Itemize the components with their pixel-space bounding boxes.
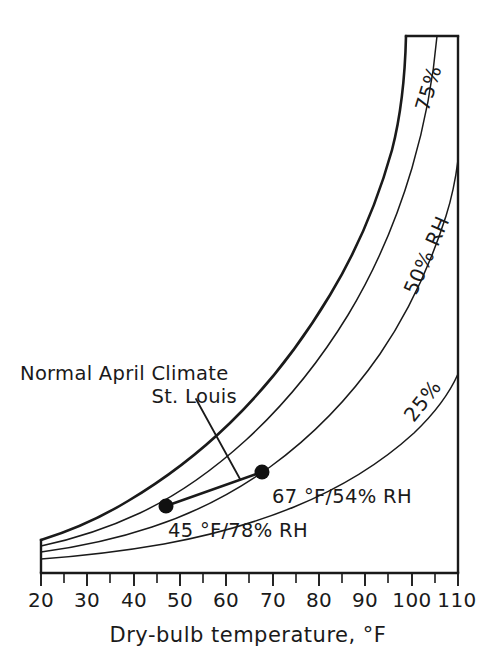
- data-point-hot[interactable]: [255, 465, 270, 480]
- point-label-hot: 67 °F/54% RH: [272, 485, 412, 508]
- rh-label-group: 75% 50% RH 25%: [399, 62, 455, 426]
- x-axis-minor-ticks: [64, 573, 435, 583]
- x-axis: 20 30 40 50 60 70 80 90 100 110 Dry-bulb…: [28, 573, 477, 647]
- x-tick-label-70: 70: [260, 588, 286, 612]
- x-tick-label-90: 90: [352, 588, 378, 612]
- x-tick-label-80: 80: [306, 588, 332, 612]
- annotation-line2: St. Louis: [151, 385, 237, 408]
- x-tick-label-50: 50: [167, 588, 193, 612]
- x-tick-label-30: 30: [74, 588, 100, 612]
- x-tick-label-60: 60: [213, 588, 239, 612]
- rh-25-label: 25%: [399, 375, 446, 426]
- annotation-line1: Normal April Climate: [20, 362, 229, 385]
- curve-group: [41, 36, 458, 559]
- rh-50-label: 50% RH: [399, 212, 455, 298]
- rh-75-curve: [41, 36, 437, 546]
- x-tick-label-110: 110: [437, 588, 476, 612]
- data-point-cold[interactable]: [159, 499, 174, 514]
- x-tick-label-20: 20: [28, 588, 54, 612]
- point-label-cold: 45 °F/78% RH: [168, 519, 308, 542]
- x-axis-tick-labels: 20 30 40 50 60 70 80 90 100 110: [28, 588, 477, 612]
- climate-series: [159, 399, 270, 514]
- chart-canvas: 75% 50% RH 25% Normal April Climate St. …: [0, 0, 496, 660]
- x-tick-label-100: 100: [392, 588, 431, 612]
- x-tick-label-40: 40: [121, 588, 147, 612]
- x-axis-title: Dry-bulb temperature, °F: [110, 623, 387, 647]
- annotation-leader-line: [196, 399, 240, 479]
- saturation-curve: [41, 36, 406, 540]
- psychrometric-chart: 75% 50% RH 25% Normal April Climate St. …: [0, 0, 496, 660]
- rh-75-label: 75%: [410, 62, 446, 113]
